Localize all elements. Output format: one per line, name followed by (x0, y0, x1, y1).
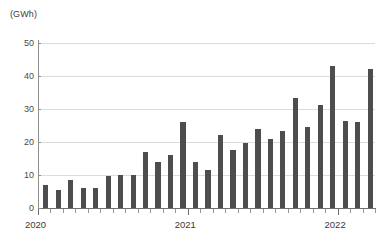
bar (330, 66, 335, 208)
y-axis-tick-label: 50 (10, 38, 34, 48)
y-axis-tick-mark (38, 175, 41, 176)
bar (355, 122, 360, 208)
x-axis-tick-mark (200, 209, 201, 213)
x-axis-tick-mark (325, 209, 326, 213)
x-axis-tick-mark (88, 209, 89, 213)
x-axis-tick-mark (375, 209, 376, 213)
y-axis-tick-label: 20 (10, 137, 34, 147)
bar (293, 98, 298, 208)
x-axis-tick-mark (100, 209, 101, 213)
x-axis-tick-mark (163, 209, 164, 213)
bar-chart: (GWh) 01020304050 202020212022 (0, 0, 379, 242)
x-axis-tick-mark (238, 209, 239, 213)
x-axis-major-tick (338, 209, 339, 215)
y-axis-tick-label: 0 (10, 203, 34, 213)
x-axis-major-tick (188, 209, 189, 215)
bar (205, 170, 210, 208)
x-axis-tick-mark (138, 209, 139, 213)
x-axis-tick-mark (250, 209, 251, 213)
bar (243, 143, 248, 208)
x-axis-tick-mark (363, 209, 364, 213)
x-axis-tick-mark (213, 209, 214, 213)
bar (305, 127, 310, 208)
bar (255, 129, 260, 208)
x-axis-tick-mark (313, 209, 314, 213)
bar (180, 122, 185, 208)
x-axis-tick-mark (263, 209, 264, 213)
bar (81, 188, 86, 208)
x-axis-tick-mark (288, 209, 289, 213)
x-axis-tick-mark (350, 209, 351, 213)
bar (368, 69, 373, 208)
x-axis-year-label: 2021 (175, 219, 196, 230)
bars-layer (38, 43, 375, 208)
bar (318, 105, 323, 208)
bar (43, 185, 48, 208)
x-axis-major-tick (38, 209, 39, 215)
y-axis-tick-labels: 01020304050 (6, 43, 34, 208)
bar (218, 135, 223, 208)
x-axis-tick-mark (275, 209, 276, 213)
y-axis-tick-mark (38, 76, 41, 77)
x-axis-tick-mark (225, 209, 226, 213)
bar (230, 150, 235, 208)
y-axis-tick-mark (38, 109, 41, 110)
bar (68, 180, 73, 208)
y-axis-tick-mark (38, 142, 41, 143)
bar (118, 175, 123, 208)
bar (143, 152, 148, 208)
x-axis-tick-mark (50, 209, 51, 213)
x-axis-tick-mark (113, 209, 114, 213)
bar (131, 175, 136, 208)
y-axis-tick-label: 40 (10, 71, 34, 81)
x-axis-tick-mark (75, 209, 76, 213)
bar (268, 139, 273, 208)
x-axis-tick-mark (150, 209, 151, 213)
x-axis-tick-mark (175, 209, 176, 213)
bar (280, 131, 285, 208)
bar (155, 162, 160, 208)
x-axis-tick-mark (300, 209, 301, 213)
bar (106, 176, 111, 208)
bar (93, 188, 98, 208)
bar (343, 121, 348, 208)
y-axis-tick-mark (38, 43, 41, 44)
bar (56, 190, 61, 208)
x-axis-tick-mark (125, 209, 126, 213)
x-axis-year-label: 2020 (25, 219, 46, 230)
y-axis-unit-label: (GWh) (10, 9, 37, 19)
y-axis-tick-label: 10 (10, 170, 34, 180)
x-axis-year-label: 2022 (325, 219, 346, 230)
x-axis-tick-mark (63, 209, 64, 213)
y-axis-tick-label: 30 (10, 104, 34, 114)
bar (193, 162, 198, 208)
bar (168, 155, 173, 208)
